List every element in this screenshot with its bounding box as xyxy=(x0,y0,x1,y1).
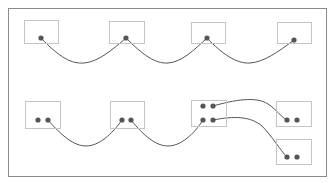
port-dot-icon[interactable] xyxy=(38,35,43,40)
port-dot-icon[interactable] xyxy=(284,117,289,122)
port-dot-icon[interactable] xyxy=(123,35,128,40)
node-n4[interactable] xyxy=(278,23,312,44)
node-n6[interactable] xyxy=(111,102,145,129)
node-n8[interactable] xyxy=(277,102,312,127)
port-dot-icon[interactable] xyxy=(204,35,209,40)
node-n7[interactable] xyxy=(192,101,227,127)
node-box[interactable] xyxy=(192,101,227,127)
port-dot-icon[interactable] xyxy=(291,37,296,42)
node-n2[interactable] xyxy=(110,22,145,44)
port-dot-icon[interactable] xyxy=(210,117,215,122)
node-box[interactable] xyxy=(111,102,145,129)
edge-n6-n7[interactable] xyxy=(131,120,203,146)
port-dot-icon[interactable] xyxy=(294,154,299,159)
edge-n1-n2[interactable] xyxy=(41,38,126,63)
diagram-frame xyxy=(9,9,327,177)
port-dot-icon[interactable] xyxy=(284,154,289,159)
node-n9[interactable] xyxy=(277,140,312,165)
node-box[interactable] xyxy=(26,102,61,129)
diagram-canvas xyxy=(0,0,332,183)
node-n3[interactable] xyxy=(192,23,226,44)
node-n1[interactable] xyxy=(25,21,59,44)
edge-n7-n9[interactable] xyxy=(213,118,287,157)
node-box[interactable] xyxy=(277,102,312,127)
port-dot-icon[interactable] xyxy=(119,117,124,122)
edges-layer xyxy=(41,38,294,157)
node-n5[interactable] xyxy=(26,102,61,129)
node-box[interactable] xyxy=(192,23,226,44)
port-dot-icon[interactable] xyxy=(210,103,215,108)
nodes-layer xyxy=(25,21,312,165)
port-dot-icon[interactable] xyxy=(200,103,205,108)
port-dot-icon[interactable] xyxy=(294,117,299,122)
edge-n3-n4[interactable] xyxy=(207,38,294,63)
edge-n7-n8[interactable] xyxy=(213,100,287,120)
node-box[interactable] xyxy=(277,140,312,165)
port-dot-icon[interactable] xyxy=(35,117,40,122)
port-dot-icon[interactable] xyxy=(45,117,50,122)
port-dot-icon[interactable] xyxy=(200,117,205,122)
edge-n2-n3[interactable] xyxy=(126,38,207,63)
port-dot-icon[interactable] xyxy=(128,117,133,122)
